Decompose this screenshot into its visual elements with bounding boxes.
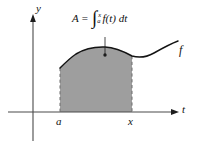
formula-integrand: f(t) — [102, 12, 115, 24]
integral-lower-limit: a — [97, 18, 100, 25]
t-axis-arrowhead — [171, 109, 179, 115]
curve-label-f: f — [179, 44, 182, 56]
formula-differential: dt — [119, 12, 128, 24]
integral-area-figure: y t f a x A=∫xaf(t) dt — [0, 0, 197, 143]
y-axis-arrowhead — [30, 14, 36, 22]
tick-label-a: a — [56, 116, 62, 127]
annotation-leader-dot — [103, 53, 106, 56]
shaded-area-under-curve — [60, 47, 132, 112]
area-formula: A=∫xaf(t) dt — [72, 12, 127, 26]
tick-label-x: x — [128, 116, 133, 127]
t-axis-label: t — [182, 104, 185, 115]
formula-equals: = — [79, 12, 91, 24]
integral-limits: xa — [98, 12, 101, 26]
formula-area-symbol: A — [72, 12, 79, 24]
y-axis-label: y — [36, 3, 41, 14]
